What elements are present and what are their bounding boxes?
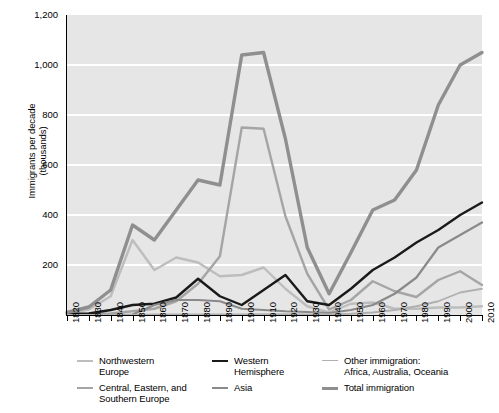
legend-label-line1: Other immigration: [344, 355, 420, 366]
x-axis-tick-label: 1900 [246, 302, 256, 323]
x-axis-tick-label: 1880 [202, 302, 212, 323]
x-axis-tick-label: 2010 [486, 302, 496, 323]
legend-label-line2: Southern Europe [99, 393, 187, 404]
legend-swatch-icon [212, 387, 228, 389]
y-axis-line [66, 15, 67, 316]
x-axis-tick-label: 1870 [180, 302, 190, 323]
x-axis-tick [154, 316, 155, 321]
legend-central-eastern-southern-europe: Central, Eastern, andSouthern Europe [77, 382, 212, 404]
x-axis-tick-label: 1950 [355, 302, 365, 323]
legend-label-line2: Europe [99, 366, 154, 377]
legend-column-2: WesternHemisphereAsia [212, 355, 327, 398]
x-axis-tick [307, 316, 308, 321]
x-axis-tick-label: 1830 [93, 302, 103, 323]
legend-swatch-icon [77, 360, 93, 362]
x-axis-tick [416, 316, 417, 321]
legend-swatch-icon [212, 360, 228, 362]
legend-column-3: Other immigration:Africa, Australia, Oce… [322, 355, 499, 398]
x-axis-tick-label: 1980 [420, 302, 430, 323]
x-axis-tick [329, 316, 330, 321]
x-axis-tick [395, 316, 396, 321]
legend-column-1: NorthwesternEuropeCentral, Eastern, andS… [77, 355, 212, 409]
y-axis-tick-label: 600 [22, 160, 58, 170]
legend-label-line1: Central, Eastern, and [99, 382, 187, 393]
x-axis-tick-label: 1820 [71, 302, 81, 323]
legend-label-line1: Western [234, 355, 269, 366]
y-axis-tick-label: 200 [22, 260, 58, 270]
legend-label: Other immigration:Africa, Australia, Oce… [344, 355, 448, 377]
chart-legend: NorthwesternEuropeCentral, Eastern, andS… [67, 355, 487, 407]
x-axis-tick-label: 1960 [377, 302, 387, 323]
legend-total-immigration: Total immigration [322, 382, 499, 393]
legend-other-immigration: Other immigration:Africa, Australia, Oce… [322, 355, 499, 377]
y-axis-tick-label: 800 [22, 110, 58, 120]
x-axis-tick-label: 1930 [311, 302, 321, 323]
legend-swatch-icon [77, 387, 93, 389]
x-axis-tick [198, 316, 199, 321]
x-axis-tick [242, 316, 243, 321]
x-axis-tick [285, 316, 286, 321]
legend-swatch-icon [322, 360, 338, 361]
x-axis-tick [67, 316, 68, 321]
legend-label: Total immigration [344, 382, 414, 393]
legend-label-line2: Africa, Australia, Oceania [344, 366, 448, 377]
legend-western-hemisphere: WesternHemisphere [212, 355, 327, 377]
legend-label: WesternHemisphere [234, 355, 284, 377]
x-axis-tick [89, 316, 90, 321]
legend-asia: Asia [212, 382, 327, 393]
x-axis-tick [460, 316, 461, 321]
y-axis-tick-label: 1,200 [22, 10, 58, 20]
x-axis-tick [133, 316, 134, 321]
y-axis-title: Immigrants per decade (thousands) [26, 36, 48, 266]
plot-area [67, 15, 482, 315]
x-axis-tick-label: 1890 [224, 302, 234, 323]
series-line-western_hemisphere [67, 203, 482, 315]
x-axis-tick-label: 1850 [137, 302, 147, 323]
x-axis-tick-label: 1910 [268, 302, 278, 323]
y-axis-tick-label: 400 [22, 210, 58, 220]
x-axis-tick-label: 1840 [115, 302, 125, 323]
x-axis-tick-label: 2000 [464, 302, 474, 323]
x-axis-tick [438, 316, 439, 321]
x-axis-tick [373, 316, 374, 321]
legend-label: Asia [234, 382, 252, 393]
x-axis-tick [264, 316, 265, 321]
legend-label: Central, Eastern, andSouthern Europe [99, 382, 187, 404]
x-axis-tick-label: 1940 [333, 302, 343, 323]
x-axis-tick [220, 316, 221, 321]
x-axis-tick-label: 1970 [399, 302, 409, 323]
legend-swatch-icon [322, 387, 338, 390]
x-axis-tick [176, 316, 177, 321]
legend-label-line1: Asia [234, 382, 252, 393]
x-axis-tick [482, 316, 483, 321]
legend-northwestern-europe: NorthwesternEurope [77, 355, 212, 377]
y-axis-title-line2: (thousands) [37, 36, 48, 266]
series-lines [67, 15, 482, 315]
x-axis-tick [111, 316, 112, 321]
legend-label-line2: Hemisphere [234, 366, 284, 377]
x-axis-tick-label: 1920 [289, 302, 299, 323]
legend-label-line1: Northwestern [99, 355, 154, 366]
x-axis-tick [351, 316, 352, 321]
legend-label-line1: Total immigration [344, 382, 414, 393]
x-axis-tick-label: 1990 [442, 302, 452, 323]
y-axis-tick-label: 1,000 [22, 60, 58, 70]
legend-label: NorthwesternEurope [99, 355, 154, 377]
x-axis-tick-label: 1860 [158, 302, 168, 323]
